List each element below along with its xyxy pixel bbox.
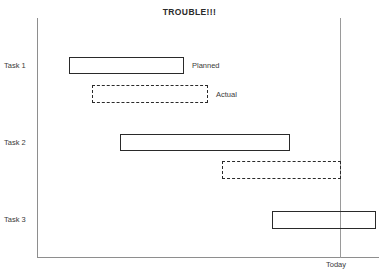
task-label-task-2: Task 2 [4, 138, 26, 147]
y-axis-line [37, 18, 38, 258]
task2-actual-bar [222, 161, 341, 179]
gantt-chart: TROUBLE!!! Today Task 1 Task 2 Task 3 Pl… [0, 0, 379, 273]
actual-annotation-label: Actual [216, 90, 237, 99]
task3-planned-bar [272, 211, 376, 229]
chart-title: TROUBLE!!! [0, 7, 379, 17]
x-axis-line [37, 257, 379, 258]
task1-planned-bar [69, 57, 184, 74]
task-label-task-1: Task 1 [4, 61, 26, 70]
task-label-task-3: Task 3 [4, 215, 26, 224]
planned-annotation-label: Planned [192, 61, 220, 70]
task1-actual-bar [92, 85, 208, 103]
task2-planned-bar [120, 134, 290, 151]
today-label: Today [326, 260, 346, 269]
